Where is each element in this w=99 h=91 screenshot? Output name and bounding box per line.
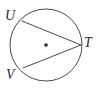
geometry-figure: U V T bbox=[0, 0, 99, 91]
vertex-label-v: V bbox=[6, 68, 15, 82]
chord-ut-segment bbox=[22, 21, 81, 45]
chord-vt-segment bbox=[23, 45, 81, 68]
circle-center-dot bbox=[44, 43, 48, 47]
vertex-label-t: T bbox=[84, 36, 92, 50]
vertex-label-u: U bbox=[5, 9, 15, 23]
